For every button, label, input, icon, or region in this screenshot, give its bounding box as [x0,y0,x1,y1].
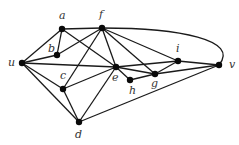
edge-i-v [178,61,219,65]
vertex-v [216,62,222,68]
vertex-label-e: e [112,71,119,84]
vertex-u [19,60,25,66]
vertex-f [99,25,105,31]
edge-f-i [102,28,178,61]
vertex-label-i: i [176,42,180,55]
vertex-c [60,86,66,92]
graph-diagram: abfucehgivd [0,0,239,145]
edge-u-d [22,63,79,122]
vertex-label-f: f [98,8,105,21]
vertex-e [113,64,119,70]
vertex-label-a: a [59,9,66,22]
edge-f-b [57,28,102,55]
edge-f-v-curved [102,28,223,65]
edge-u-e [22,63,116,67]
vertex-d [76,119,82,125]
vertex-i [175,58,181,64]
vertex-label-h: h [129,84,136,97]
vertex-label-g: g [151,77,158,90]
vertex-label-c: c [60,69,66,82]
vertex-h [127,77,133,83]
vertex-a [59,26,65,32]
vertex-label-d: d [75,128,82,141]
edge-f-c [63,28,102,89]
edge-a-f [62,28,102,29]
edge-c-d [63,89,79,122]
vertex-label-u: u [8,56,15,69]
vertex-label-v: v [229,58,236,71]
vertex-label-b: b [48,42,55,55]
